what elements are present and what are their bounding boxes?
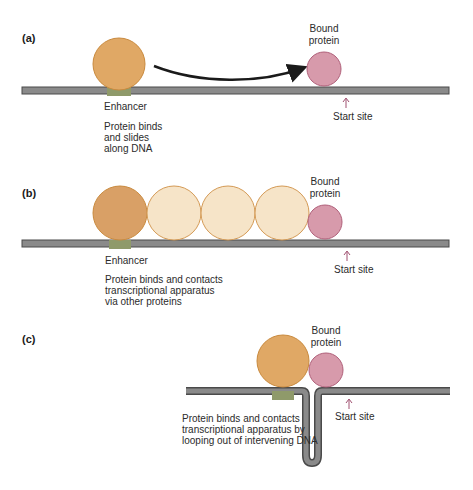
bound-protein-label: Bound	[311, 176, 340, 187]
caption-line: Protein binds	[104, 121, 162, 132]
bound-protein	[307, 52, 341, 86]
enhancer-site	[109, 240, 131, 249]
enhancer-site	[272, 391, 294, 400]
caption-line: Protein binds and contacts	[182, 413, 300, 424]
caption-line: transcriptional apparatus by	[182, 424, 305, 435]
enhancer-label: Enhancer	[105, 255, 148, 266]
bound-protein	[309, 353, 343, 387]
caption-line: looping out of intervening DNA	[182, 435, 318, 446]
sliding-arrow-icon	[154, 66, 303, 80]
intermediate-protein	[255, 186, 309, 240]
caption-line: transcriptional apparatus	[105, 285, 215, 296]
bound-protein-label: Bound	[310, 23, 339, 34]
start-site-label: Start site	[333, 111, 373, 122]
panel-a: (a) Bound protein Start site Enhancer Pr…	[22, 23, 449, 154]
caption-line: Protein binds and contacts	[105, 274, 223, 285]
activator-protein	[93, 186, 147, 240]
caption-line: and slides	[104, 132, 149, 143]
start-site-label: Start site	[334, 264, 374, 275]
start-site-label: Start site	[335, 411, 375, 422]
panel-b: (b) Bound protein Start site Enhancer Pr…	[22, 176, 449, 307]
activator-protein	[257, 335, 309, 387]
bound-protein-label: Bound	[312, 325, 341, 336]
panel-label-a: (a)	[22, 32, 36, 44]
intermediate-protein	[147, 186, 201, 240]
panel-label-c: (c)	[22, 333, 36, 345]
caption-line: along DNA	[104, 143, 153, 154]
panel-c: (c) Bound protein Start site Protein bin…	[22, 325, 450, 463]
activator-protein	[93, 38, 145, 90]
caption-line: via other proteins	[105, 296, 182, 307]
enhancer-label: Enhancer	[104, 101, 147, 112]
bound-protein	[308, 205, 342, 239]
bound-protein-label: protein	[309, 35, 340, 46]
bound-protein-label: protein	[311, 337, 342, 348]
dna-strand	[22, 240, 449, 247]
intermediate-protein	[201, 186, 255, 240]
bound-protein-label: protein	[310, 188, 341, 199]
panel-label-b: (b)	[22, 187, 36, 199]
enhancer-mechanisms-diagram: (a) Bound protein Start site Enhancer Pr…	[0, 0, 473, 490]
dna-strand	[22, 87, 449, 94]
